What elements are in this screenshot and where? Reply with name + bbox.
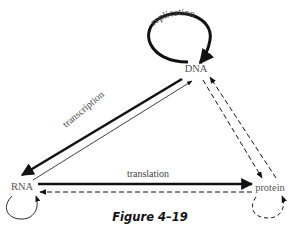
- node-protein: protein: [255, 182, 285, 193]
- central-dogma-diagram: replication transcription translation DN…: [0, 0, 294, 231]
- protein-to-dna-dashed-arrow: [210, 77, 276, 178]
- dna-to-protein-dashed-arrow: [203, 80, 262, 178]
- reverse-transcription-arrow: [33, 81, 192, 180]
- translation-label: translation: [127, 168, 169, 179]
- transcription-label: transcription: [60, 89, 106, 130]
- figure-caption: Figure 4–19: [112, 210, 187, 224]
- node-rna: RNA: [11, 181, 34, 192]
- rna-self-loop-arrow: [6, 196, 37, 219]
- node-dna: DNA: [185, 63, 208, 74]
- replication-label: replication: [148, 6, 196, 27]
- replication-label-text: replication: [148, 6, 196, 27]
- edge-replication: replication: [148, 6, 210, 63]
- protein-self-loop-dashed-arrow: [252, 196, 283, 218]
